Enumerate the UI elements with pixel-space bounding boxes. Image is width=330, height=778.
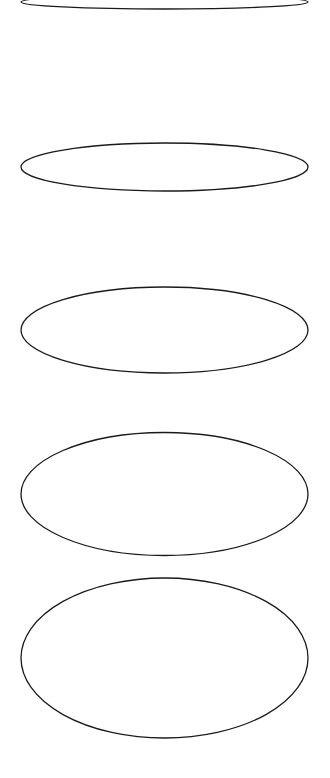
ellipse-diagram	[0, 0, 330, 778]
background	[0, 0, 330, 778]
